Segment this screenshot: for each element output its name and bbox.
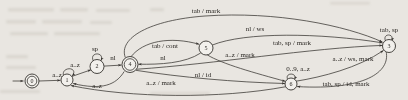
edge-label-3-self-loop: tab, sp — [380, 26, 399, 34]
state-node-4[interactable]: 4 — [122, 57, 138, 73]
edge-label-6-to-3: a..z / ws, mark — [333, 55, 374, 63]
edge-label-5-to-4: nl — [160, 54, 166, 62]
state-node-2-label: 2 — [96, 63, 99, 69]
state-node-4-label: 4 — [129, 61, 132, 67]
edge-2-to-4 — [104, 65, 121, 66]
edge-label-1-self-loop: a..z — [70, 61, 80, 69]
edge-label-4-to-3-tab-mark: tab / mark — [192, 7, 221, 15]
edge-0-to-1 — [39, 80, 60, 81]
edge-5-to-4 — [139, 53, 201, 64]
edge-label-4-to-5: tab / cont — [152, 42, 178, 50]
edge-label-5-to-6: a..z / mark — [225, 51, 255, 59]
edge-1-to-2 — [72, 70, 91, 77]
state-node-5-label: 5 — [205, 45, 208, 51]
state-node-1-label: 1 — [66, 77, 69, 83]
state-node-2[interactable]: 2 — [90, 60, 104, 74]
edge-label-4-to-3-tab-sp-mark: tab, sp / mark — [273, 39, 312, 47]
state-node-6[interactable]: 6 — [285, 78, 297, 90]
edge-label-5-to-3-nl-ws: nl / ws — [246, 25, 265, 33]
edge-label-6-self-loop: 0..9, a..z — [286, 65, 310, 73]
state-node-0[interactable]: 0 — [25, 74, 39, 88]
state-machine-figure: 0 1 2 4 5 6 — [0, 0, 408, 100]
state-node-5[interactable]: 5 — [199, 41, 213, 55]
edge-label-4-to-6: nl / id — [195, 71, 212, 79]
state-node-3[interactable]: 3 — [383, 40, 396, 53]
state-node-1[interactable]: 1 — [61, 74, 73, 86]
edge-label-3-to-6: tab, sp / id, mark — [322, 80, 370, 88]
state-node-3-label: 3 — [388, 43, 391, 49]
state-node-0-label: 0 — [31, 78, 34, 84]
edge-label-2-self-loop: sp — [92, 45, 99, 53]
edge-label-2-to-4: nl — [110, 54, 116, 62]
edge-labels-layer: a..z a..z sp nl tab / cont nl tab / mark… — [52, 7, 398, 89]
edge-label-4-to-1: a..z — [92, 82, 102, 90]
edge-label-6-to-1: a..z / mark — [146, 79, 176, 87]
state-node-6-label: 6 — [290, 81, 293, 87]
fsm-canvas: 0 1 2 4 5 6 — [0, 0, 408, 100]
edge-label-0-to-1: a..z — [52, 71, 62, 79]
